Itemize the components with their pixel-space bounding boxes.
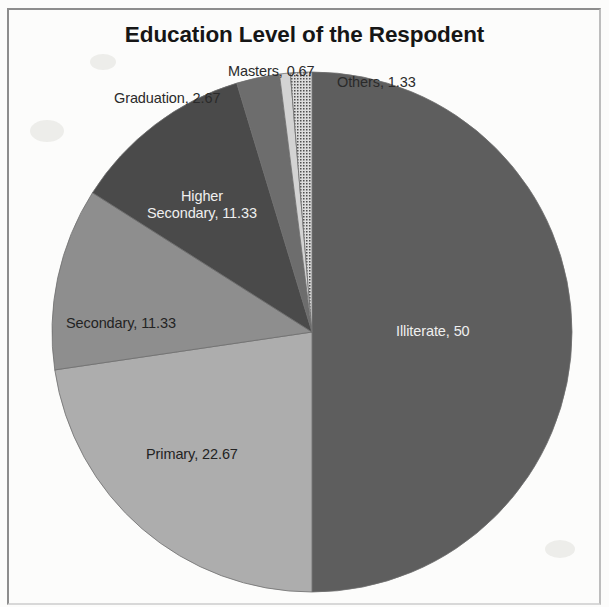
pie-label-primary: Primary, 22.67 bbox=[146, 446, 238, 463]
pie-label-higher-secondary: Higher Secondary, 11.33 bbox=[142, 188, 262, 222]
pie-label-graduation: Graduation, 2.67 bbox=[114, 90, 220, 106]
pie-label-secondary: Secondary, 11.33 bbox=[66, 315, 176, 332]
pie-chart-svg bbox=[0, 0, 609, 607]
pie-label-higher-secondary-line1: Higher bbox=[142, 188, 262, 205]
pie-label-higher-secondary-line2: Secondary, 11.33 bbox=[142, 205, 262, 222]
figure-page: Education Level of the Respodent Masters… bbox=[0, 0, 609, 607]
pie-label-illiterate: Illiterate, 50 bbox=[396, 323, 470, 340]
pie-chart bbox=[0, 0, 609, 607]
pie-slice-group bbox=[52, 72, 572, 592]
pie-label-masters: Masters, 0.67 bbox=[228, 63, 315, 79]
pie-label-others: Others, 1.33 bbox=[337, 74, 416, 90]
